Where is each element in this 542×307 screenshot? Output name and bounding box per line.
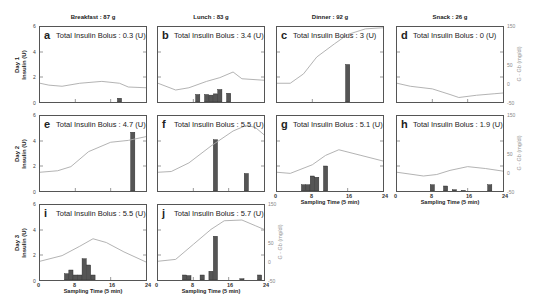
insulin-bar: [323, 166, 327, 191]
right-tick: 150: [507, 23, 515, 29]
insulin-bar: [131, 132, 135, 191]
panel-g: gTotal Insulin Bolus : 5.1 (U): [276, 115, 384, 192]
panel-letter: i: [44, 207, 47, 219]
panel-letter: b: [162, 29, 169, 41]
right-tick: 0: [268, 259, 271, 265]
right-tick: 0: [507, 81, 510, 87]
day-label-text: Day 1: [14, 40, 21, 90]
right-tick: 50: [507, 151, 513, 157]
total-bolus-label: Total Insulin Bolus : 5.5 (U): [56, 209, 146, 218]
total-bolus-label: Total Insulin Bolus : 4.7 (U): [56, 120, 146, 129]
insulin-bar: [86, 265, 90, 280]
insulin-bar: [182, 275, 186, 280]
meal-title-1: Lunch : 83 g: [157, 14, 265, 20]
panel-letter: c: [281, 29, 287, 41]
x-axis-label: Sampling Time (5 min): [39, 288, 147, 294]
left-tick: 2: [33, 74, 36, 80]
insulin-bar: [213, 140, 217, 191]
insulin-bar: [117, 98, 121, 102]
insulin-bar: [204, 95, 208, 103]
insulin-bar: [69, 270, 73, 280]
glucose-line: [40, 81, 146, 87]
insulin-bar: [452, 190, 456, 191]
right-tick: -50: [507, 100, 514, 106]
left-tick: 2: [33, 163, 36, 169]
panel-c: cTotal Insulin Bolus : 3 (U): [276, 26, 384, 103]
insulin-bar: [187, 276, 191, 280]
insulin-bar: [306, 185, 310, 191]
panel-e: eTotal Insulin Bolus : 4.7 (U): [39, 115, 147, 192]
day-label-text: Day 2: [14, 129, 21, 179]
insulin-bar: [78, 275, 82, 280]
glucose-line: [158, 72, 264, 90]
total-bolus-label: Total Insulin Bolus : 1.9 (U): [413, 120, 503, 129]
insulin-bar: [209, 271, 213, 280]
right-tick: 150: [507, 112, 515, 118]
day-label-1: Day 1Insulin (U): [14, 40, 28, 90]
glucose-line: [397, 83, 503, 97]
right-tick: 0: [507, 170, 510, 176]
insulin-bar: [488, 185, 492, 191]
panel-letter: a: [44, 29, 50, 41]
insulin-bar: [73, 275, 77, 280]
left-tick: 2: [33, 252, 36, 258]
glucose-line: [397, 167, 503, 176]
glucose-line: [40, 239, 146, 262]
insulin-bar: [443, 186, 447, 191]
insulin-bar: [257, 275, 261, 280]
panel-b: bTotal Insulin Bolus : 3.4 (U): [157, 26, 265, 103]
glucose-axis-label: G - Gb (mg/dl): [277, 212, 283, 272]
panel-letter: g: [281, 118, 288, 130]
left-tick: 0: [33, 100, 36, 106]
x-axis-label: Sampling Time (5 min): [276, 199, 384, 205]
total-bolus-label: Total Insulin Bolus : 0.3 (U): [56, 31, 146, 40]
left-tick: 4: [33, 138, 36, 144]
meal-title-0: Breakfast : 87 g: [39, 14, 147, 20]
insulin-bar: [196, 95, 200, 103]
insulin-bar: [218, 90, 222, 103]
left-tick: 4: [33, 227, 36, 233]
panel-f: fTotal Insulin Bolus : 5.5 (U): [157, 115, 265, 192]
insulin-bar: [461, 190, 465, 191]
insulin-bar: [430, 185, 434, 191]
panel-letter: f: [162, 118, 166, 130]
panel-a: aTotal Insulin Bolus : 0.3 (U): [39, 26, 147, 103]
panel-letter: h: [401, 118, 408, 130]
day-label-2: Day 2Insulin (U): [14, 129, 28, 179]
panel-i: iTotal Insulin Bolus : 5.5 (U): [39, 204, 147, 281]
total-bolus-label: Total Insulin Bolus : 5.7 (U): [174, 209, 264, 218]
glucose-axis-label: G - Gb (mg/dl): [516, 34, 522, 94]
glucose-line: [158, 220, 264, 261]
insulin-bar: [244, 174, 248, 192]
left-tick: 0: [33, 278, 36, 284]
meal-title-2: Dinner : 92 g: [276, 14, 384, 20]
total-bolus-label: Total Insulin Bolus : 3 (U): [293, 31, 376, 40]
right-tick: 50: [268, 240, 274, 246]
total-bolus-label: Total Insulin Bolus : 5.5 (U): [174, 120, 264, 129]
total-bolus-label: Total Insulin Bolus : 0 (U): [413, 31, 496, 40]
insulin-bar: [346, 65, 350, 103]
left-tick: 6: [33, 201, 36, 207]
left-tick: 6: [33, 112, 36, 118]
insulin-axis-label: Insulin (U): [21, 40, 28, 90]
insulin-bar: [91, 275, 95, 280]
insulin-bar: [301, 185, 305, 191]
insulin-bar: [315, 177, 319, 191]
total-bolus-label: Total Insulin Bolus : 3.4 (U): [174, 31, 264, 40]
insulin-bar: [213, 236, 217, 280]
panel-j: jTotal Insulin Bolus : 5.7 (U): [157, 204, 265, 281]
day-label-text: Day 3: [14, 218, 21, 268]
panel-d: dTotal Insulin Bolus : 0 (U): [396, 26, 504, 103]
x-axis-label: Sampling Time (5 min): [157, 288, 265, 294]
panel-letter: d: [401, 29, 408, 41]
insulin-bar: [240, 279, 244, 280]
insulin-bar: [82, 259, 86, 280]
glucose-axis-label: G - Gb (mg/dl): [516, 123, 522, 183]
insulin-bar: [227, 93, 231, 102]
left-tick: 0: [33, 189, 36, 195]
glucose-line: [158, 125, 264, 172]
meal-title-3: Snack : 26 g: [396, 14, 504, 20]
panel-letter: e: [44, 118, 50, 130]
insulin-axis-label: Insulin (U): [21, 129, 28, 179]
insulin-bar: [310, 176, 314, 191]
